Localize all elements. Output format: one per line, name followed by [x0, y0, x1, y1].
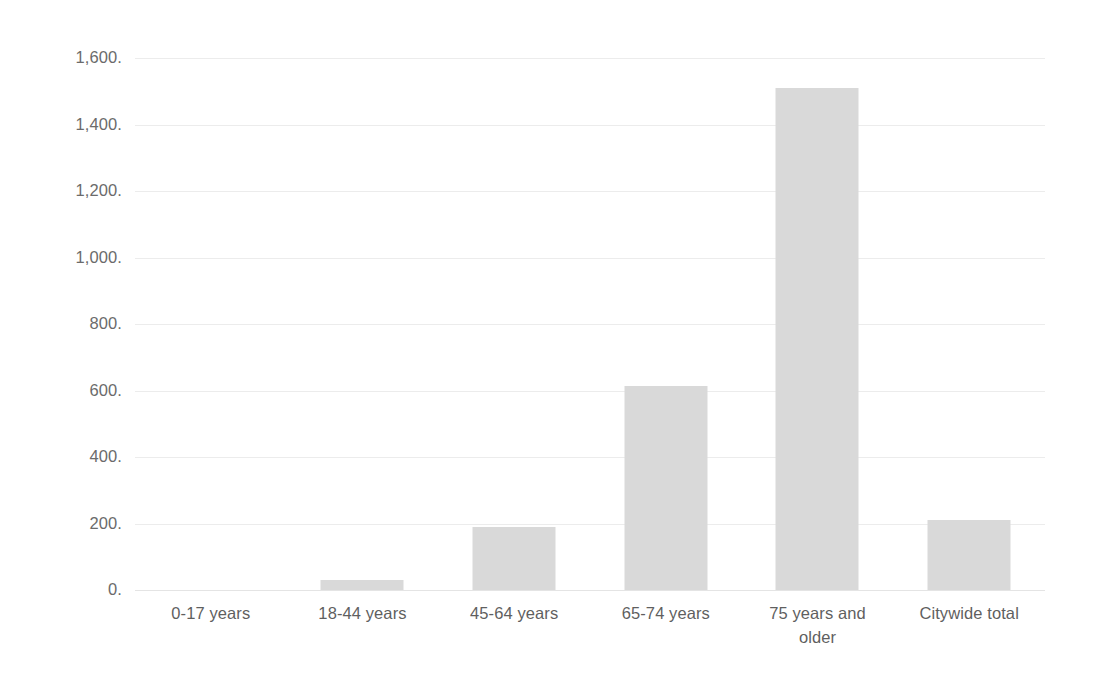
x-axis-tick-label-line1: 75 years and [742, 601, 894, 625]
bar-slot-75-years-and-older [742, 58, 894, 590]
x-axis-tick-45-64-years: 45-64 years [438, 601, 590, 625]
bar-18-44-years[interactable] [321, 580, 404, 590]
x-axis-tick-65-74-years: 65-74 years [590, 601, 742, 625]
y-axis-tick-200: 200. [0, 514, 122, 533]
x-axis-tick-75-years-and-older: 75 years and older [742, 601, 894, 649]
y-axis-tick-1400: 1,400. [0, 115, 122, 134]
x-axis-tick-label: Citywide total [919, 604, 1019, 622]
x-axis-tick-18-44-years: 18-44 years [287, 601, 439, 625]
x-axis-tick-label: 18-44 years [318, 604, 406, 622]
x-axis-tick-0-17-years: 0-17 years [135, 601, 287, 625]
x-axis-labels: 0-17 years 18-44 years 45-64 years 65-74… [135, 601, 1045, 663]
y-axis-tick-1600: 1,600. [0, 48, 122, 67]
gridline-zero-baseline [135, 590, 1045, 591]
bar-citywide-total[interactable] [928, 520, 1011, 590]
bar-65-74-years[interactable] [624, 386, 707, 590]
y-axis-tick-0: 0. [0, 580, 122, 599]
x-axis-tick-citywide-total: Citywide total [893, 601, 1045, 625]
bar-slot-0-17-years [135, 58, 287, 590]
bar-45-64-years[interactable] [473, 527, 556, 590]
y-axis-tick-800: 800. [0, 314, 122, 333]
y-axis-labels: 1,600. 1,400. 1,200. 1,000. 800. 600. 40… [0, 0, 122, 689]
x-axis-tick-label: 65-74 years [622, 604, 710, 622]
bar-75-years-and-older[interactable] [776, 88, 859, 590]
x-axis-tick-label: 0-17 years [171, 604, 250, 622]
bar-slot-18-44-years [287, 58, 439, 590]
y-axis-tick-1200: 1,200. [0, 181, 122, 200]
y-axis-tick-400: 400. [0, 447, 122, 466]
bar-chart: 1,600. 1,400. 1,200. 1,000. 800. 600. 40… [0, 0, 1097, 689]
bar-slot-citywide-total [893, 58, 1045, 590]
x-axis-tick-label: 45-64 years [470, 604, 558, 622]
bar-slot-65-74-years [590, 58, 742, 590]
y-axis-tick-600: 600. [0, 381, 122, 400]
x-axis-tick-label-line2: older [742, 625, 894, 649]
bars-layer [135, 58, 1045, 590]
bar-slot-45-64-years [438, 58, 590, 590]
y-axis-tick-1000: 1,000. [0, 248, 122, 267]
